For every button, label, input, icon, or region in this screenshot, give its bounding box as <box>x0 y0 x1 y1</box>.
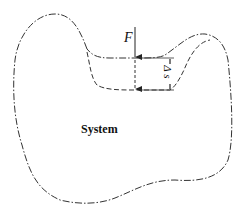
system-boundary <box>14 14 232 203</box>
system-label: System <box>81 122 118 137</box>
force-label: F <box>124 30 133 46</box>
displaced-boundary <box>87 40 210 90</box>
system-diagram <box>0 0 240 213</box>
displacement-label: Δ s <box>162 65 174 78</box>
